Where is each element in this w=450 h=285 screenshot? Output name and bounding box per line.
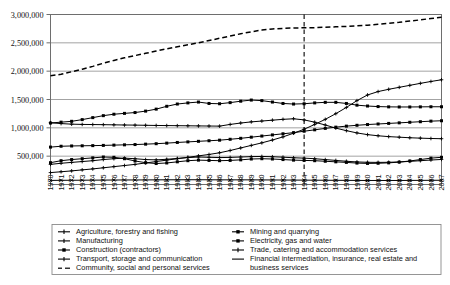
y-axis-label: 2,000,000 [11, 67, 44, 76]
y-axis-label: 3,000,000 [11, 11, 44, 20]
x-axis-label: 1988 [236, 175, 245, 191]
x-axis-label: 1995 [310, 175, 319, 191]
x-axis-label: 2000 [363, 175, 372, 191]
x-axis-label: 1972 [67, 175, 76, 191]
series-line [51, 17, 442, 75]
x-axis-label: 1985 [205, 175, 214, 191]
x-axis-label: 1981 [162, 175, 171, 191]
series-line [49, 117, 444, 141]
series-line [49, 99, 443, 125]
legend-item-label: Transport, storage and communication [76, 254, 202, 263]
legend-item-label: Financial intermediation, insurance, rea… [250, 254, 417, 263]
legend-item-label: Trade, catering and accommodation servic… [250, 245, 398, 254]
x-axis-label: 2002 [384, 175, 393, 191]
x-axis-label: 1975 [99, 175, 108, 191]
x-axis-label: 1983 [183, 175, 192, 191]
series-line [49, 78, 444, 174]
line-chart: 500,0001,000,0001,500,0002,000,0002,500,… [0, 0, 450, 285]
y-axis-label: 500,000 [17, 152, 44, 161]
x-axis-label: 1991 [268, 175, 277, 191]
series-line [49, 119, 443, 148]
x-axis-label: 1982 [173, 175, 182, 191]
x-axis-label: 1974 [88, 175, 97, 191]
x-axis-label: 1971 [57, 175, 66, 191]
x-axis-label: 1978 [131, 175, 140, 191]
series-path [51, 17, 442, 75]
x-axis-label: 2005 [416, 175, 425, 191]
x-axis-label: 2004 [405, 175, 414, 191]
legend-item-label: Agriculture, forestry and fishing [76, 227, 178, 236]
legend-item-label: Electricity, gas and water [250, 236, 332, 245]
legend-item-label: Mining and quarrying [250, 227, 319, 236]
x-axis-label: 2007 [437, 175, 446, 191]
legend-item-label: Community, social and personal services [76, 263, 210, 272]
x-axis-label: 1976 [110, 175, 119, 191]
x-axis-label: 1990 [257, 175, 266, 191]
series-path [51, 119, 442, 139]
x-axis-label: 1987 [226, 175, 235, 191]
x-axis-label: 1993 [289, 175, 298, 191]
gridlines [51, 43, 442, 156]
x-axis-label: 1996 [321, 175, 330, 191]
legend-item: Transport, storage and communication [58, 254, 202, 263]
x-axis-label: 1999 [353, 175, 362, 191]
y-axis-label: 1,000,000 [11, 124, 44, 133]
legend-item-label: Construction (contractors) [76, 245, 161, 254]
x-axis-label: 1973 [78, 175, 87, 191]
legend-item: business services [250, 263, 309, 272]
x-axis-label: 2001 [374, 175, 383, 191]
x-axis-label: 1986 [215, 175, 224, 191]
legend-item: Agriculture, forestry and fishing [58, 227, 178, 236]
x-axis-label: 1979 [141, 175, 150, 191]
x-axis-label: 1984 [194, 175, 203, 191]
series-path [51, 100, 442, 123]
y-axis-label: 1,500,000 [11, 96, 44, 105]
x-axis-tick-labels: 1970197119721973197419751976197719781979… [46, 175, 446, 191]
legend-item-label: Manufacturing [76, 236, 123, 245]
x-axis-label: 1998 [342, 175, 351, 191]
x-axis-label: 1994 [300, 175, 309, 191]
x-axis-label: 1992 [279, 175, 288, 191]
x-axis-label: 1980 [152, 175, 161, 191]
x-axis-label: 1997 [331, 175, 340, 191]
chart-container: 500,0001,000,0001,500,0002,000,0002,500,… [0, 0, 450, 285]
x-axis-label: 2006 [427, 175, 436, 191]
legend-item-label: business services [250, 263, 309, 272]
y-axis-tick-labels: 500,0001,000,0001,500,0002,000,0002,500,… [11, 11, 44, 162]
chart-legend: Agriculture, forestry and fishingManufac… [52, 225, 441, 275]
x-axis-label: 1970 [46, 175, 55, 191]
y-axis-label: 2,500,000 [11, 39, 44, 48]
x-axis-label: 2003 [395, 175, 404, 191]
y-axis-tick-marks [47, 15, 51, 157]
legend-item: Community, social and personal services [58, 263, 210, 272]
legend-item: Trade, catering and accommodation servic… [232, 245, 398, 254]
x-axis-label: 1989 [247, 175, 256, 191]
legend-item: Financial intermediation, insurance, rea… [232, 254, 417, 263]
x-axis-label: 1977 [120, 175, 129, 191]
